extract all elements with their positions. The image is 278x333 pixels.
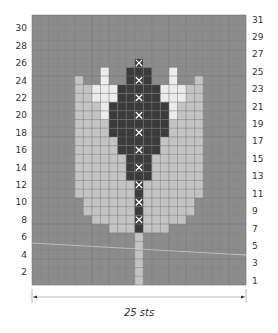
chart-cell <box>152 189 161 198</box>
chart-cell <box>75 250 84 259</box>
chart-cell <box>203 137 212 146</box>
chart-cell <box>109 207 118 216</box>
chart-cell <box>49 67 58 76</box>
chart-cell <box>186 59 195 68</box>
chart-cell <box>83 207 92 216</box>
chart-cell <box>100 15 109 24</box>
row-number-label: 28 <box>16 41 28 51</box>
chart-cell <box>75 41 84 50</box>
chart-cell <box>109 215 118 224</box>
chart-cell <box>66 241 75 250</box>
row-number-label: 29 <box>252 32 264 42</box>
chart-cell <box>212 198 221 207</box>
chart-cell <box>203 15 212 24</box>
chart-cell <box>203 24 212 33</box>
chart-cell <box>118 233 127 242</box>
chart-cell <box>186 233 195 242</box>
chart-cell <box>143 180 152 189</box>
chart-cell <box>66 41 75 50</box>
chart-cell <box>229 224 238 233</box>
chart-cell <box>186 102 195 111</box>
chart-cell <box>49 120 58 129</box>
chart-cell <box>118 50 127 59</box>
chart-cell <box>152 154 161 163</box>
chart-cell <box>58 15 67 24</box>
chart-cell <box>58 180 67 189</box>
chart-cell <box>169 41 178 50</box>
chart-cell <box>135 32 144 41</box>
chart-cell <box>220 137 229 146</box>
chart-cell <box>66 198 75 207</box>
chart-cell <box>118 215 127 224</box>
chart-cell <box>152 24 161 33</box>
chart-cell <box>41 233 50 242</box>
chart-cell <box>49 154 58 163</box>
chart-cell <box>160 241 169 250</box>
chart-cell <box>212 172 221 181</box>
chart-cell <box>92 15 101 24</box>
chart-cell <box>186 32 195 41</box>
chart-cell <box>100 67 109 76</box>
chart-cell <box>83 154 92 163</box>
chart-cell <box>212 24 221 33</box>
chart-cell <box>195 102 204 111</box>
chart-cell <box>237 180 246 189</box>
chart-cell <box>203 67 212 76</box>
chart-cell <box>195 146 204 155</box>
chart-cell <box>66 207 75 216</box>
row-number-label: 6 <box>21 232 27 242</box>
chart-cell <box>75 93 84 102</box>
chart-cell <box>83 67 92 76</box>
chart-cell <box>143 154 152 163</box>
chart-cell <box>169 207 178 216</box>
chart-cell <box>58 111 67 120</box>
chart-cell <box>109 198 118 207</box>
chart-cell <box>109 241 118 250</box>
chart-cell <box>126 233 135 242</box>
chart-cell <box>126 224 135 233</box>
chart-cell <box>118 259 127 268</box>
chart-cell <box>169 233 178 242</box>
chart-cell <box>203 93 212 102</box>
chart-cell <box>66 233 75 242</box>
chart-cell <box>237 137 246 146</box>
chart-cell <box>160 111 169 120</box>
row-number-label: 17 <box>252 136 263 146</box>
chart-cell <box>126 32 135 41</box>
chart-cell <box>186 67 195 76</box>
chart-cell <box>212 32 221 41</box>
row-number-label: 3 <box>252 258 258 268</box>
row-number-label: 11 <box>252 189 263 199</box>
chart-cell <box>195 59 204 68</box>
chart-cell <box>109 67 118 76</box>
chart-cell <box>212 137 221 146</box>
chart-cell <box>212 259 221 268</box>
chart-cell <box>66 15 75 24</box>
chart-cell <box>195 198 204 207</box>
chart-cell <box>100 276 109 285</box>
chart-cell <box>126 198 135 207</box>
chart-cell <box>237 215 246 224</box>
chart-cell <box>178 172 187 181</box>
chart-cell <box>160 215 169 224</box>
chart-cell <box>143 215 152 224</box>
chart-cell <box>186 154 195 163</box>
chart-cell <box>169 15 178 24</box>
chart-cell <box>126 93 135 102</box>
chart-cell <box>186 189 195 198</box>
chart-cell <box>178 128 187 137</box>
row-number-label: 30 <box>16 23 28 33</box>
chart-cell <box>75 85 84 94</box>
chart-cell <box>49 111 58 120</box>
chart-cell <box>32 172 41 181</box>
chart-cell <box>143 163 152 172</box>
chart-cell <box>41 128 50 137</box>
chart-cell <box>229 111 238 120</box>
chart-cell <box>229 163 238 172</box>
chart-cell <box>203 50 212 59</box>
row-number-label: 18 <box>16 128 28 138</box>
chart-cell <box>220 268 229 277</box>
chart-cell <box>203 241 212 250</box>
row-number-label: 4 <box>21 250 27 260</box>
chart-cell <box>49 215 58 224</box>
